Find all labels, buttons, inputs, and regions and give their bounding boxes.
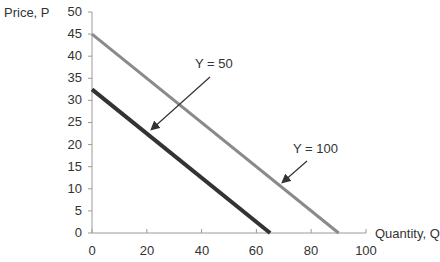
y-tick-label: 45 (52, 26, 82, 41)
demand-chart: Price, P Quantity, Q Y = 50 Y = 100 50 4… (0, 0, 440, 262)
y-tick-label: 50 (52, 4, 82, 19)
x-tick-label: 0 (72, 243, 112, 258)
x-tick-label: 80 (291, 243, 331, 258)
y-tick-label: 35 (52, 70, 82, 85)
y-tick-label: 0 (52, 225, 82, 240)
y-tick-label: 5 (52, 203, 82, 218)
y-tick-label: 25 (52, 114, 82, 129)
y-tick-label: 10 (52, 181, 82, 196)
series-line-y50 (92, 89, 270, 233)
arrow-y100 (283, 161, 307, 182)
x-tick-label: 100 (346, 243, 386, 258)
y-axis-label: Price, P (4, 5, 50, 20)
y-tick-label: 20 (52, 137, 82, 152)
x-tick-marks (92, 229, 366, 233)
x-tick-label: 20 (127, 243, 167, 258)
y-tick-label: 30 (52, 92, 82, 107)
annotation-y100: Y = 100 (293, 141, 338, 156)
y-tick-label: 15 (52, 159, 82, 174)
x-tick-label: 60 (236, 243, 276, 258)
x-axis-label: Quantity, Q (375, 226, 440, 241)
y-tick-label: 40 (52, 48, 82, 63)
x-tick-label: 40 (182, 243, 222, 258)
annotation-y50: Y = 50 (195, 56, 233, 71)
y-tick-marks (88, 12, 92, 233)
